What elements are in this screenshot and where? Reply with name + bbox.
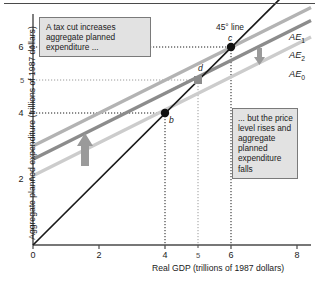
annotation-tax-cut: A tax cut increases aggregate planned ex… bbox=[39, 17, 151, 57]
point-b-label: b bbox=[169, 115, 174, 125]
x-axis-title: Real GDP (trillions of 1987 dollars) bbox=[152, 263, 284, 273]
ae1-label-sub: 1 bbox=[301, 37, 305, 44]
annotation-price-level: ... but the price level rises and aggreg… bbox=[232, 108, 298, 179]
ae1-label: AE1 bbox=[289, 32, 305, 44]
ae0-label: AE0 bbox=[289, 69, 305, 81]
point-d-label: d bbox=[198, 63, 203, 73]
point-b-marker bbox=[161, 109, 169, 117]
x-tick-label-0: 0 bbox=[27, 250, 39, 260]
point-d-marker bbox=[194, 76, 202, 84]
y-tick-label-2: 2 bbox=[15, 174, 27, 184]
x-tick-label-8: 8 bbox=[291, 250, 303, 260]
chart-figure: A tax cut increases aggregate planned ex… bbox=[0, 0, 319, 283]
top-rule bbox=[4, 3, 315, 4]
ae0-label-sub: 0 bbox=[301, 74, 305, 81]
point-c-label: c bbox=[228, 33, 232, 43]
y-tick-label-6: 6 bbox=[15, 42, 27, 52]
ae2-label-sub: 2 bbox=[301, 55, 305, 62]
x-tick-label-6: 6 bbox=[225, 250, 237, 260]
x-tick-label-2: 2 bbox=[93, 250, 105, 260]
ae2-label: AE2 bbox=[289, 50, 305, 62]
point-c-marker bbox=[227, 43, 235, 51]
ae2-label-text: AE bbox=[289, 50, 301, 60]
x-tick-label-5: 5 bbox=[192, 251, 204, 260]
y-axis-title: Aggregate planned expenditure (trillions… bbox=[27, 18, 37, 248]
forty-five-degree-label: 45° line bbox=[216, 22, 244, 32]
x-tick-label-4: 4 bbox=[159, 250, 171, 260]
ae1-label-text: AE bbox=[289, 32, 301, 42]
y-tick-label-4: 4 bbox=[15, 108, 27, 118]
ae0-label-text: AE bbox=[289, 69, 301, 79]
